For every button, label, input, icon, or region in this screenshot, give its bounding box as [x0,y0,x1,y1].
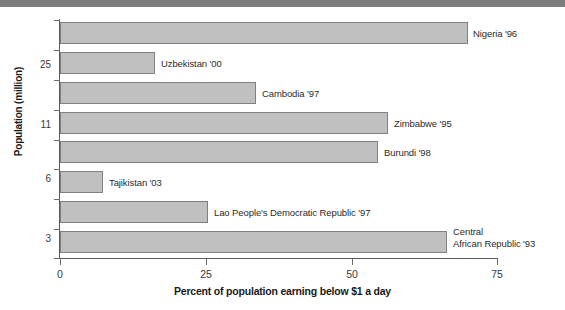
bar-label-zimbabwe: Zimbabwe '95 [394,118,452,129]
bar-label-central-african-republic-line1: Central [453,226,483,237]
bar-lao [60,201,208,223]
x-tick-mark [352,259,353,265]
y-tick-mark [54,50,60,51]
bar-label-burundi: Burundi '98 [384,147,431,158]
x-tick-label-75: 75 [477,268,517,280]
y-tick-mark [54,169,60,170]
y-tick-mark [54,80,60,81]
header-band [0,0,565,7]
bar-central-african-republic [60,231,447,253]
y-tick-mark [54,20,60,21]
y-tick-label-3: 3 [11,233,51,244]
y-tick-mark [54,110,60,111]
x-tick-label-0: 0 [40,268,80,280]
y-tick-mark [54,199,60,200]
x-tick-mark [60,259,61,265]
y-axis-title: Population (million) [13,37,24,187]
bar-label-cambodia: Cambodia '97 [262,88,319,99]
x-tick-label-50: 50 [332,268,372,280]
x-tick-mark [497,259,498,265]
y-tick-mark [54,229,60,230]
bar-label-central-african-republic-line2: African Republic '93 [453,238,535,249]
chart-figure: 25 11 6 3 Nigeria '96 Uzbekistan '00 Cam… [0,0,565,310]
bar-label-nigeria: Nigeria '96 [473,28,517,39]
bar-burundi [60,141,378,163]
bar-cambodia [60,82,256,104]
bar-nigeria [60,22,468,44]
bar-label-uzbekistan: Uzbekistan '00 [161,58,222,69]
bar-uzbekistan [60,52,155,74]
bar-zimbabwe [60,112,388,134]
bar-label-tajikistan: Tajikistan '03 [109,177,162,188]
bar-tajikistan [60,171,103,193]
x-tick-mark [206,259,207,265]
x-axis-title: Percent of population earning below $1 a… [0,285,565,297]
bar-label-lao: Lao People's Democratic Republic '97 [214,207,370,218]
x-axis-line [59,258,498,259]
x-tick-label-25: 25 [186,268,226,280]
